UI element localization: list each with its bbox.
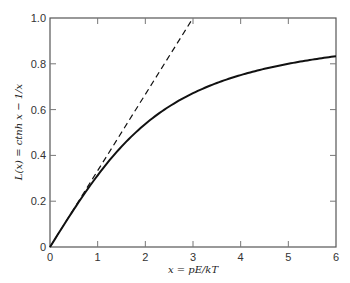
x-axis-label: x = pE/kT <box>168 264 220 275</box>
y-tick-labels: 00.20.40.60.81.0 <box>31 12 46 253</box>
x-tick-label: 4 <box>238 251 244 263</box>
plot-frame <box>50 18 336 247</box>
initial-slope-dashed-line <box>50 18 193 247</box>
x-tick-label: 1 <box>95 251 101 263</box>
x-tick-label: 0 <box>47 251 53 263</box>
y-tick-label: 1.0 <box>31 12 46 24</box>
x-tick-label: 3 <box>190 251 196 263</box>
x-tick-label: 5 <box>285 251 291 263</box>
y-axis-label: L(x) = ctnh x − 1/x <box>13 84 24 182</box>
x-tick-label: 6 <box>333 251 339 263</box>
y-tick-label: 0.2 <box>31 195 46 207</box>
y-tick-label: 0 <box>40 241 46 253</box>
x-tick-label: 2 <box>142 251 148 263</box>
y-tick-label: 0.4 <box>31 149 46 161</box>
y-tick-label: 0.6 <box>31 104 46 116</box>
x-tick-labels: 0123456 <box>47 251 339 263</box>
chart: 0123456 00.20.40.60.81.0 x = pE/kT L(x) … <box>0 0 350 283</box>
y-tick-label: 0.8 <box>31 58 46 70</box>
axis-ticks <box>50 18 336 247</box>
series-lines <box>50 18 336 247</box>
langevin-curve <box>50 56 336 247</box>
